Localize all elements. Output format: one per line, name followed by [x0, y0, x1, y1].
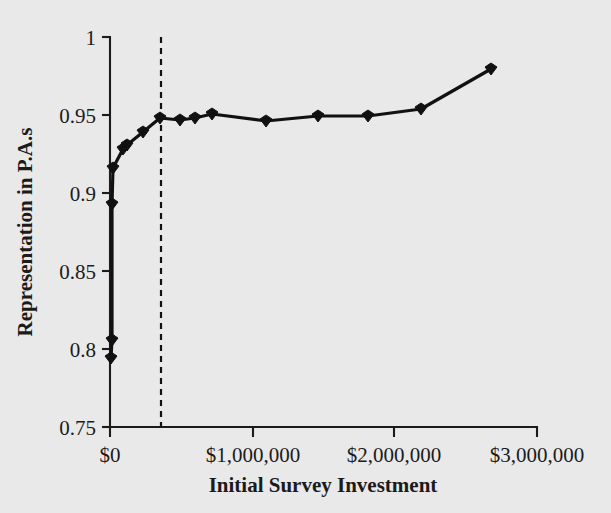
data-point — [174, 114, 186, 126]
x-axis-ticks — [110, 427, 537, 437]
x-tick-label-2m: $2,000,000 — [347, 443, 442, 467]
data-point — [106, 198, 118, 210]
chart-figure: 1 0.95 0.9 0.85 0.8 0.75 $0 $1,000,000 $… — [0, 0, 611, 513]
data-point — [312, 110, 324, 122]
y-tick-label-0-75: 0.75 — [59, 416, 96, 440]
data-point — [106, 334, 118, 346]
x-tick-label-1m: $1,000,000 — [206, 443, 301, 467]
axes-group — [110, 37, 537, 427]
line-chart: 1 0.95 0.9 0.85 0.8 0.75 $0 $1,000,000 $… — [0, 0, 611, 513]
data-point — [105, 352, 117, 364]
series-line-representation — [111, 69, 491, 358]
y-tick-label-0-8: 0.8 — [70, 338, 96, 362]
series-markers — [105, 63, 497, 364]
y-tick-label-1: 1 — [86, 26, 97, 50]
y-tick-label-0-85: 0.85 — [59, 260, 96, 284]
data-point — [206, 108, 218, 120]
data-point — [362, 110, 374, 122]
y-axis-ticks — [102, 37, 110, 427]
y-axis-title: Representation in P.A.s — [13, 128, 37, 337]
y-tick-label-0-95: 0.95 — [59, 104, 96, 128]
data-point — [260, 115, 272, 127]
x-tick-label-0: $0 — [100, 443, 121, 467]
data-point — [107, 162, 119, 174]
y-tick-label-0-9: 0.9 — [70, 182, 96, 206]
data-point — [189, 112, 201, 124]
x-tick-label-3m: $3,000,000 — [490, 443, 585, 467]
x-axis-title: Initial Survey Investment — [209, 473, 438, 497]
x-axis-tick-labels: $0 $1,000,000 $2,000,000 $3,000,000 — [100, 443, 585, 467]
y-axis-tick-labels: 1 0.95 0.9 0.85 0.8 0.75 — [59, 26, 96, 440]
